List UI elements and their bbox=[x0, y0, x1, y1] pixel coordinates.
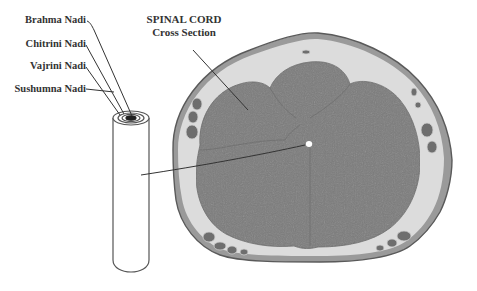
leader-sushumna bbox=[86, 89, 114, 92]
sushumna-cylinder bbox=[113, 111, 149, 272]
title-line-1: SPINAL CORD bbox=[140, 13, 228, 26]
label-sushumna-nadi: Sushumna Nadi bbox=[0, 84, 86, 95]
diagram-title: SPINAL CORD Cross Section bbox=[140, 13, 228, 39]
label-brahma-nadi: Brahma Nadi bbox=[8, 15, 86, 26]
leader-brahma bbox=[87, 21, 132, 116]
central-canal bbox=[306, 141, 312, 147]
spinal-cord-diagram: Brahma Nadi Chitrini Nadi Vajrini Nadi S… bbox=[0, 0, 477, 291]
title-line-2: Cross Section bbox=[140, 26, 228, 39]
cross-section bbox=[173, 33, 452, 262]
label-chitrini-nadi: Chitrini Nadi bbox=[8, 39, 86, 50]
brahma-core bbox=[126, 116, 136, 120]
cylinder-body bbox=[113, 118, 149, 272]
label-vajrini-nadi: Vajrini Nadi bbox=[8, 61, 86, 72]
